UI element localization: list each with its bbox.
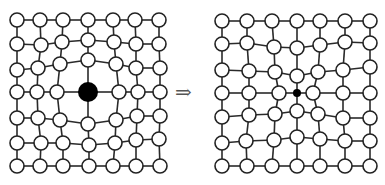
lattice-atom [81, 117, 95, 131]
lattice-atom [215, 159, 229, 173]
lattice-atom [130, 109, 144, 123]
lattice-atom [10, 159, 24, 173]
lattice-atom [290, 41, 304, 55]
lattice-atom [30, 85, 44, 99]
lattice-atom [112, 85, 126, 99]
lattice-atom [306, 86, 320, 100]
lattice-atom [215, 37, 229, 51]
left-lattice-large-solute [10, 13, 167, 173]
lattice-atom [215, 136, 229, 150]
lattice-atom [338, 159, 352, 173]
lattice-atom [240, 36, 254, 50]
lattice-atom [82, 138, 96, 152]
lattice-atom [363, 134, 377, 148]
lattice-atom [10, 63, 24, 77]
lattice-atom [240, 159, 254, 173]
lattice-atom [313, 38, 327, 52]
lattice-atom [10, 136, 24, 150]
lattice-atom [31, 111, 45, 125]
lattice-atom [153, 159, 167, 173]
lattice-atom [290, 69, 304, 83]
lattice-atom [82, 159, 96, 173]
lattice-atom [56, 13, 70, 27]
lattice-atom [153, 109, 167, 123]
lattice-atom [152, 132, 166, 146]
lattice-atom [109, 113, 123, 127]
lattice-atom [242, 86, 256, 100]
lattice-atom [34, 136, 48, 150]
lattice-atom [215, 86, 229, 100]
lattice-atom [33, 13, 47, 27]
lattice-atom [31, 61, 45, 75]
lattice-atom [106, 159, 120, 173]
lattice-atom [81, 13, 95, 27]
lattice-atom [268, 65, 282, 79]
lattice-atom [10, 37, 24, 51]
lattice-atom [336, 86, 350, 100]
lattice-atom [33, 159, 47, 173]
lattice-atom [267, 133, 281, 147]
lattice-atom [363, 111, 377, 125]
lattice-atom [290, 159, 304, 173]
lattice-atom [215, 14, 229, 28]
lattice-atom [290, 130, 304, 144]
lattice-atom [129, 133, 143, 147]
lattice-atom [131, 85, 145, 99]
transition-arrow-icon: ⇒ [175, 80, 192, 104]
lattice-atom [313, 159, 327, 173]
solute-atom [78, 82, 98, 102]
lattice-atom [107, 35, 121, 49]
lattice-diagram [0, 0, 385, 185]
lattice-atom [55, 35, 69, 49]
lattice-atom [311, 65, 325, 79]
lattice-atom [363, 60, 377, 74]
lattice-atom [10, 111, 24, 125]
lattice-atom [153, 61, 167, 75]
lattice-atom [265, 159, 279, 173]
right-lattice-small-solute [215, 14, 377, 173]
lattice-atom [10, 85, 24, 99]
lattice-atom [363, 86, 377, 100]
lattice-atom [240, 14, 254, 28]
lattice-atom [338, 134, 352, 148]
lattice-atom [129, 61, 143, 75]
lattice-atom [290, 104, 304, 118]
lattice-atom [129, 37, 143, 51]
lattice-atom [267, 40, 281, 54]
lattice-atom [215, 110, 229, 124]
lattice-atom [313, 14, 327, 28]
lattice-atom [363, 159, 377, 173]
lattice-atom [265, 14, 279, 28]
lattice-atom [53, 113, 67, 127]
lattice-atom [81, 53, 95, 67]
lattice-atom [152, 13, 166, 27]
lattice-atom [338, 35, 352, 49]
lattice-atom [215, 63, 229, 77]
lattice-atom [313, 132, 327, 146]
lattice-atom [152, 37, 166, 51]
lattice-atom [290, 14, 304, 28]
lattice-atom [242, 108, 256, 122]
lattice-atom [336, 111, 350, 125]
lattice-atom [56, 136, 70, 150]
lattice-atom [153, 85, 167, 99]
lattice-atom [34, 38, 48, 52]
lattice-atom [108, 136, 122, 150]
lattice-atom [242, 64, 256, 78]
lattice-atom [128, 13, 142, 27]
lattice-atom [53, 57, 67, 71]
lattice-atom [106, 13, 120, 27]
solute-atom [293, 89, 301, 97]
lattice-atom [10, 13, 24, 27]
lattice-atom [109, 57, 123, 71]
lattice-atom [129, 159, 143, 173]
lattice-atom [56, 159, 70, 173]
lattice-atom [363, 14, 377, 28]
lattice-atom [239, 134, 253, 148]
lattice-atom [268, 107, 282, 121]
lattice-atom [338, 14, 352, 28]
lattice-atom [50, 85, 64, 99]
lattice-atom [311, 107, 325, 121]
lattice-atom [272, 86, 286, 100]
lattice-atom [363, 36, 377, 50]
